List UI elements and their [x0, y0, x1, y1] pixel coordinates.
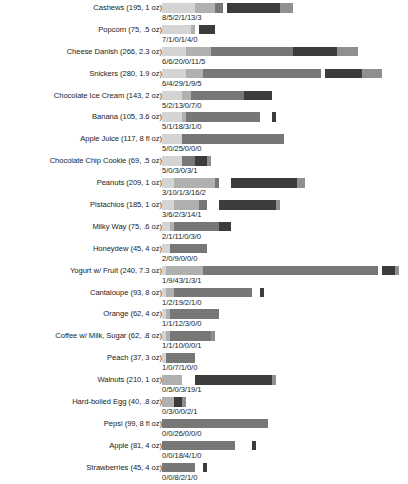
bar-segment-1: [162, 112, 182, 122]
bar-segment-1: [162, 178, 174, 188]
row-bar-area: 2/0/9/0/0/0: [162, 243, 408, 264]
chart-row: Chocolate Ice Cream (143, 2 oz)5/2/13/0/…: [0, 90, 408, 112]
bar-segment-5: [244, 91, 273, 101]
bar-segment-5: [219, 222, 231, 232]
row-bar-area: 3/10/1/3/16/2: [162, 177, 408, 198]
row-bar-area: 1/1/10/0/0/1: [162, 330, 408, 351]
chart-rows: Cashews (195, 1 oz)8/5/2/1/13/3Popcorn (…: [0, 2, 408, 484]
row-bar-area: 1/0/7/1/0/0: [162, 352, 408, 373]
row-value-label: 6/4/29/1/9/5: [162, 79, 202, 88]
stacked-bar: [162, 309, 231, 319]
bar-segment-3: [162, 463, 195, 473]
bar-segment-4: [219, 309, 231, 319]
bar-segment-4: [252, 288, 260, 298]
row-bar-area: 6/4/29/1/9/5: [162, 68, 408, 89]
bar-segment-4: [219, 178, 231, 188]
bar-segment-6: [280, 3, 292, 13]
stacked-bar: [162, 331, 215, 341]
chart-row: Yogurt w/ Fruit (240, 7.3 oz)1/9/43/1/3/…: [0, 265, 408, 287]
row-category-label: Hard-boiled Egg (40, .8 oz): [0, 397, 162, 406]
stacked-bar: [162, 353, 199, 363]
bar-segment-6: [337, 47, 357, 57]
stacked-bar: [162, 112, 276, 122]
row-value-label: 1/2/19/2/1/0: [162, 298, 202, 307]
row-value-label: 1/1/10/0/0/1: [162, 341, 202, 350]
bar-segment-2: [162, 375, 182, 385]
row-value-label: 0/3/0/0/2/1: [162, 407, 197, 416]
stacked-bar: [162, 244, 207, 254]
bar-segment-4: [235, 441, 251, 451]
bar-segment-3: [182, 134, 284, 144]
bar-segment-1: [162, 3, 195, 13]
row-value-label: 1/9/43/1/3/1: [162, 276, 202, 285]
row-value-label: 5/0/25/0/0/0: [162, 144, 202, 153]
bar-segment-1: [162, 134, 182, 144]
bar-segment-6: [395, 266, 399, 276]
bar-segment-4: [207, 200, 219, 210]
chart-row: Pistachios (185, 1 oz)3/6/2/3/14/1: [0, 199, 408, 221]
row-category-label: Coffee w/ Milk, Sugar (62, .8 oz): [0, 331, 162, 340]
bar-segment-3: [170, 331, 211, 341]
bar-segment-6: [297, 178, 305, 188]
chart-row: Peanuts (209, 1 oz)3/10/1/3/16/2: [0, 177, 408, 199]
bar-segment-5: [293, 47, 338, 57]
bar-segment-2: [166, 288, 174, 298]
chart-row: Orange (62, 4 oz)1/1/12/3/0/0: [0, 308, 408, 330]
row-bar-area: 5/0/3/0/3/1: [162, 155, 408, 176]
stacked-bar: [162, 134, 284, 144]
chart-row: Cantaloupe (93, 8 oz)1/2/19/2/1/0: [0, 287, 408, 309]
bar-segment-3: [215, 3, 223, 13]
bar-segment-2: [195, 3, 215, 13]
bar-segment-5: [272, 112, 276, 122]
row-bar-area: 8/5/2/1/13/3: [162, 2, 408, 23]
row-bar-area: 2/1/11/0/3/0: [162, 221, 408, 242]
bar-segment-5: [199, 25, 215, 35]
stacked-bar: [162, 441, 256, 451]
bar-segment-1: [162, 244, 170, 254]
bar-segment-1: [162, 69, 186, 79]
row-category-label: Popcorn (75, .5 oz): [0, 25, 162, 34]
stacked-bar: [162, 156, 211, 166]
stacked-bar: [162, 3, 293, 13]
bar-segment-5: [260, 288, 264, 298]
chart-row: Hard-boiled Egg (40, .8 oz)0/3/0/0/2/1: [0, 396, 408, 418]
row-bar-area: 0/0/8/2/1/0: [162, 462, 408, 483]
bar-segment-2: [162, 397, 174, 407]
stacked-bar: [162, 375, 276, 385]
stacked-bar: [162, 178, 305, 188]
stacked-bar: [162, 25, 215, 35]
chart-row: Peach (37, 3 oz)1/0/7/1/0/0: [0, 352, 408, 374]
row-value-label: 0/0/8/2/1/0: [162, 473, 197, 482]
stacked-bar: [162, 222, 231, 232]
row-category-label: Pepsi (99, 8 fl oz): [0, 419, 162, 428]
row-value-label: 1/0/7/1/0/0: [162, 363, 197, 372]
row-bar-area: 5/1/18/3/1/0: [162, 111, 408, 132]
bar-segment-5: [382, 266, 394, 276]
row-value-label: 5/0/3/0/3/1: [162, 166, 197, 175]
row-bar-area: 6/6/20/0/11/5: [162, 46, 408, 67]
chart-row: Banana (105, 3.6 oz)5/1/18/3/1/0: [0, 111, 408, 133]
bar-segment-6: [207, 156, 211, 166]
bar-segment-5: [203, 463, 207, 473]
bar-segment-5: [252, 441, 256, 451]
bar-segment-3: [170, 309, 219, 319]
bar-segment-4: [260, 112, 272, 122]
row-bar-area: 3/6/2/3/14/1: [162, 199, 408, 220]
row-category-label: Cantaloupe (93, 8 oz): [0, 288, 162, 297]
row-value-label: 2/0/9/0/0/0: [162, 254, 197, 263]
row-value-label: 0/5/0/3/19/1: [162, 385, 202, 394]
row-bar-area: 0/0/26/0/0/0: [162, 418, 408, 439]
row-bar-area: 5/0/25/0/0/0: [162, 133, 408, 154]
row-category-label: Banana (105, 3.6 oz): [0, 112, 162, 121]
row-category-label: Pistachios (185, 1 oz): [0, 200, 162, 209]
row-category-label: Orange (62, 4 oz): [0, 309, 162, 318]
row-value-label: 7/1/0/1/4/0: [162, 35, 197, 44]
row-bar-area: 0/5/0/3/19/1: [162, 374, 408, 395]
bar-segment-3: [162, 419, 268, 429]
row-category-label: Chocolate Ice Cream (143, 2 oz): [0, 91, 162, 100]
bar-segment-3: [174, 288, 252, 298]
bar-segment-4: [182, 375, 194, 385]
stacked-bar: [162, 69, 382, 79]
bar-segment-2: [174, 200, 198, 210]
